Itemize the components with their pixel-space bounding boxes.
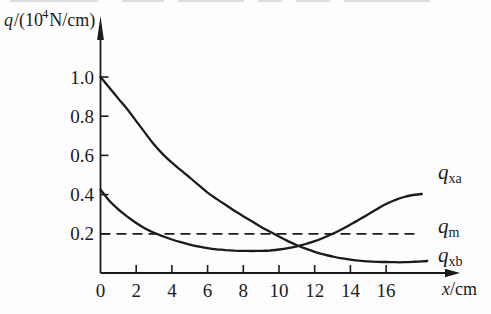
x-axis-quantity-symbol: x [442,279,450,299]
qm-symbol: q [438,214,449,238]
x-axis-tick-label: 0 [96,280,106,301]
x-axis-unit: /cm [450,279,477,299]
x-axis-tick-label: 12 [305,280,324,301]
qm-subscript: m [449,225,460,240]
x-axis-tick-label: 6 [203,280,213,301]
qxb-symbol: q [438,243,449,267]
qxa-symbol: q [438,160,449,184]
y-axis-label: q/(104N/cm) [4,10,95,31]
y-axis-tick-label: 0.2 [70,223,94,244]
y-axis-tick-label: 0.8 [70,106,94,127]
x-axis-tick-label: 16 [377,280,396,301]
series-curve-q_xa [101,190,422,251]
curve-label-qxa: qxa [438,160,462,184]
x-axis-arrow-icon [445,269,460,277]
curve-label-qxb: qxb [438,243,463,267]
x-axis-tick-label: 2 [131,280,141,301]
x-axis-label: x/cm [442,279,477,300]
y-axis-unit-close: N/cm) [49,10,95,30]
y-axis-tick-label: 1.0 [70,67,94,88]
y-axis-quantity-symbol: q [4,10,14,30]
shear-flow-distribution-figure: 02468101214160.20.40.60.81.0 q/(104N/cm)… [0,0,491,314]
x-axis-tick-label: 10 [270,280,289,301]
x-axis-tick-label: 4 [167,280,177,301]
y-axis-tick-label: 0.4 [70,184,94,205]
qxb-subscript: xb [449,254,463,269]
x-axis-tick-label: 14 [341,280,361,301]
x-axis-tick-label: 8 [239,280,249,301]
y-axis-unit-open: /(10 [14,10,43,30]
y-axis-arrow-icon [97,16,104,40]
chart-canvas: 02468101214160.20.40.60.81.0 [0,0,491,314]
y-axis-exponent: 4 [42,7,48,21]
y-axis-tick-label: 0.6 [70,145,94,166]
qxa-subscript: xa [449,171,462,186]
reference-line-label-qm: qm [438,214,459,238]
